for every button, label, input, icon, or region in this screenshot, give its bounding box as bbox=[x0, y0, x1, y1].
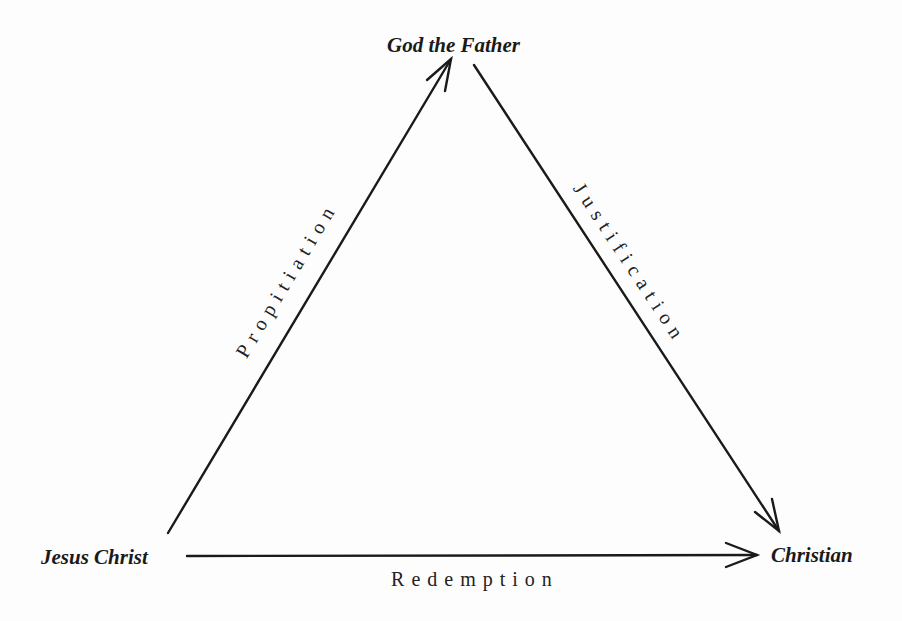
triangle-diagram: God the Father Jesus Christ Christian Pr… bbox=[0, 0, 902, 621]
node-god-the-father: God the Father bbox=[387, 33, 520, 58]
node-christian: Christian bbox=[771, 543, 853, 568]
diagram-arrows bbox=[0, 0, 902, 621]
arrow-redemption bbox=[187, 543, 757, 567]
node-jesus-christ: Jesus Christ bbox=[41, 545, 148, 570]
label-redemption: Redemption bbox=[355, 568, 595, 591]
arrow-justification bbox=[474, 65, 779, 531]
arrow-propitiation bbox=[168, 59, 451, 533]
